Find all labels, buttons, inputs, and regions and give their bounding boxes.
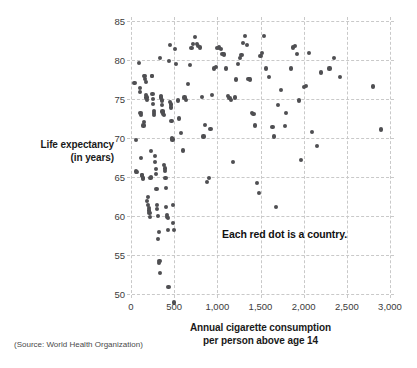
plot-area: 5055606570758085 05001,0001,5002,0002,50… (131, 21, 390, 294)
y-axis-title-line2: (in years) (4, 151, 114, 164)
y-axis-tick-label: 65 (114, 172, 125, 183)
data-point (371, 84, 375, 88)
data-point (156, 214, 160, 218)
source-note: (Source: World Health Organization) (14, 340, 143, 349)
data-point (233, 95, 237, 99)
y-axis-tick-label: 85 (114, 16, 125, 27)
data-point (154, 167, 158, 171)
data-point (224, 66, 228, 70)
data-point (174, 62, 178, 66)
gridline-vertical (174, 17, 175, 298)
x-axis-title: Annual cigarette consumption per person … (131, 322, 390, 347)
data-point (205, 180, 209, 184)
data-point (201, 134, 205, 138)
data-point (257, 191, 261, 195)
data-point (327, 66, 331, 70)
x-axis-tick-label: 2,000 (292, 301, 316, 312)
data-point (272, 134, 276, 138)
data-point (172, 228, 176, 232)
data-point (163, 169, 167, 173)
gridline-vertical (347, 17, 348, 298)
data-point (144, 80, 148, 84)
data-point (181, 148, 185, 152)
data-point (245, 43, 249, 47)
x-axis-title-line2: per person above age 14 (131, 335, 390, 348)
x-axis-tick-label: 2,500 (335, 301, 359, 312)
gridline-vertical (390, 17, 391, 298)
gridline-vertical (217, 17, 218, 298)
data-point (154, 187, 158, 191)
data-point (270, 125, 274, 129)
data-point (153, 154, 157, 158)
data-point (332, 56, 336, 60)
data-point (148, 215, 152, 219)
data-point (157, 259, 161, 263)
data-point (145, 98, 149, 102)
data-point (198, 45, 202, 49)
data-point (274, 205, 278, 209)
data-point (251, 112, 255, 116)
data-point (167, 59, 171, 63)
data-point (307, 51, 311, 55)
data-point (214, 65, 218, 69)
y-axis-title: Life expectancy (in years) (4, 138, 114, 164)
data-point (208, 127, 212, 131)
data-point (248, 77, 252, 81)
data-point (243, 34, 247, 38)
data-point (315, 144, 319, 148)
data-point (176, 98, 180, 102)
data-point (189, 46, 193, 50)
data-point (139, 113, 143, 117)
data-point (279, 88, 283, 92)
gridline-vertical (261, 17, 262, 298)
x-axis-title-line1: Annual cigarette consumption (131, 322, 390, 335)
x-axis-tick-label: 500 (166, 301, 182, 312)
data-point (262, 34, 266, 38)
data-point (289, 66, 293, 70)
data-point (163, 176, 167, 180)
chart-annotation: Each red dot is a country. (222, 228, 347, 240)
y-axis-tick-label: 70 (114, 133, 125, 144)
data-point (170, 137, 174, 141)
gridline-vertical (131, 17, 132, 298)
y-axis-title-line1: Life expectancy (4, 138, 114, 151)
x-axis-tick-label: 3,000 (378, 301, 402, 312)
data-point (141, 123, 145, 127)
y-axis-tick-label: 80 (114, 55, 125, 66)
data-point (188, 63, 192, 67)
data-point (319, 70, 323, 74)
data-point (200, 95, 204, 99)
data-point (193, 35, 197, 39)
data-point (166, 285, 170, 289)
data-point (169, 105, 173, 109)
data-point (222, 52, 226, 56)
data-point (169, 119, 173, 123)
data-point (207, 176, 211, 180)
data-point (154, 172, 158, 176)
y-axis-tick-label: 50 (114, 289, 125, 300)
x-axis-tick-label: 1,000 (205, 301, 229, 312)
y-axis-tick-label: 75 (114, 94, 125, 105)
data-point (160, 98, 164, 102)
data-point (158, 271, 162, 275)
data-point (219, 47, 223, 51)
data-point (264, 66, 268, 70)
x-axis-tick-label: 0 (128, 301, 133, 312)
gridline-vertical (304, 17, 305, 298)
data-point (149, 175, 153, 179)
data-point (157, 230, 161, 234)
data-point (141, 176, 145, 180)
y-axis-tick-label: 60 (114, 211, 125, 222)
data-point (295, 52, 299, 56)
x-axis-tick-label: 1,500 (249, 301, 273, 312)
scatter-chart-figure: Life expectancy (in years) 5055606570758… (0, 0, 417, 368)
y-axis-tick-label: 55 (114, 250, 125, 261)
data-point (299, 158, 303, 162)
data-point (164, 186, 168, 190)
